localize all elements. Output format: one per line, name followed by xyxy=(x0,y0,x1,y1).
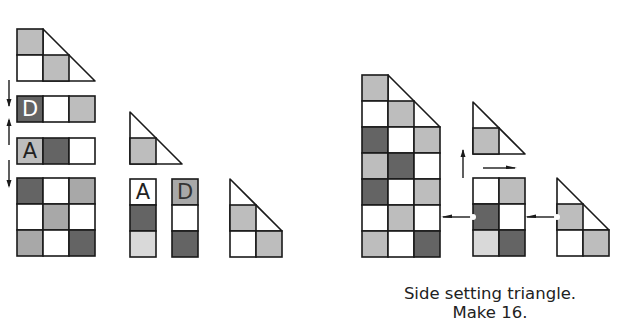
patch-square xyxy=(362,101,388,127)
patch-square xyxy=(17,55,43,81)
patch-square xyxy=(172,205,198,231)
patch-square xyxy=(388,205,414,231)
patch-square xyxy=(388,153,414,179)
patch-square xyxy=(557,230,583,256)
patch-square xyxy=(499,204,525,230)
patch-square xyxy=(414,127,440,153)
patch-square xyxy=(69,96,95,122)
block-label-A: A xyxy=(23,139,38,163)
patch-square xyxy=(130,231,156,257)
patch-square xyxy=(583,230,609,256)
patch-square xyxy=(388,179,414,205)
patch-square xyxy=(362,179,388,205)
patch-square xyxy=(69,204,95,230)
patch-square xyxy=(362,205,388,231)
patch-square xyxy=(69,138,95,164)
patch-square xyxy=(414,205,440,231)
patch-square xyxy=(414,231,440,257)
patch-square xyxy=(388,231,414,257)
patch-square xyxy=(43,55,69,81)
patch-square xyxy=(43,96,69,122)
arrow-head-icon xyxy=(525,215,536,219)
patch-square xyxy=(362,127,388,153)
arrow-head-icon xyxy=(7,99,12,107)
quilt-diagram: DAAD Side setting triangle. Make 16. xyxy=(0,0,631,325)
patch-square xyxy=(414,153,440,179)
patch-square xyxy=(388,127,414,153)
patch-square xyxy=(473,230,499,256)
patch-square xyxy=(17,29,43,55)
patch-square xyxy=(230,231,256,257)
patch-square xyxy=(69,230,95,256)
patch-square xyxy=(130,205,156,231)
patch-square xyxy=(362,153,388,179)
caption-line-2: Make 16. xyxy=(370,303,610,322)
arrow-head-icon xyxy=(441,215,452,219)
patch-square xyxy=(17,230,43,256)
diagram-canvas: DAAD xyxy=(0,0,631,325)
arrow-head-icon xyxy=(7,118,12,126)
patch-square xyxy=(499,178,525,204)
patch-square xyxy=(230,205,256,231)
patch-square xyxy=(69,178,95,204)
patch-square xyxy=(473,204,499,230)
patch-square xyxy=(17,204,43,230)
block-label-D: D xyxy=(177,180,193,204)
patch-square xyxy=(43,230,69,256)
patch-square xyxy=(43,178,69,204)
arrow-head-icon xyxy=(7,180,12,188)
patch-square xyxy=(43,204,69,230)
patch-square xyxy=(362,231,388,257)
patch-square xyxy=(414,179,440,205)
arrow-head-icon xyxy=(461,149,466,157)
patch-square xyxy=(473,128,499,154)
patch-square xyxy=(362,75,388,101)
caption-line-1: Side setting triangle. xyxy=(370,284,610,303)
patch-square xyxy=(17,178,43,204)
patch-square xyxy=(388,101,414,127)
block-label-D: D xyxy=(22,97,38,121)
seam-dot xyxy=(554,214,560,220)
arrow-head-icon xyxy=(506,166,517,170)
patch-square xyxy=(130,138,156,164)
patch-square xyxy=(557,204,583,230)
seam-dot xyxy=(470,214,476,220)
patch-square xyxy=(172,231,198,257)
patch-square xyxy=(499,230,525,256)
patch-square xyxy=(256,231,282,257)
patch-square xyxy=(43,138,69,164)
caption: Side setting triangle. Make 16. xyxy=(370,284,610,322)
patch-square xyxy=(473,178,499,204)
block-label-A: A xyxy=(136,180,151,204)
